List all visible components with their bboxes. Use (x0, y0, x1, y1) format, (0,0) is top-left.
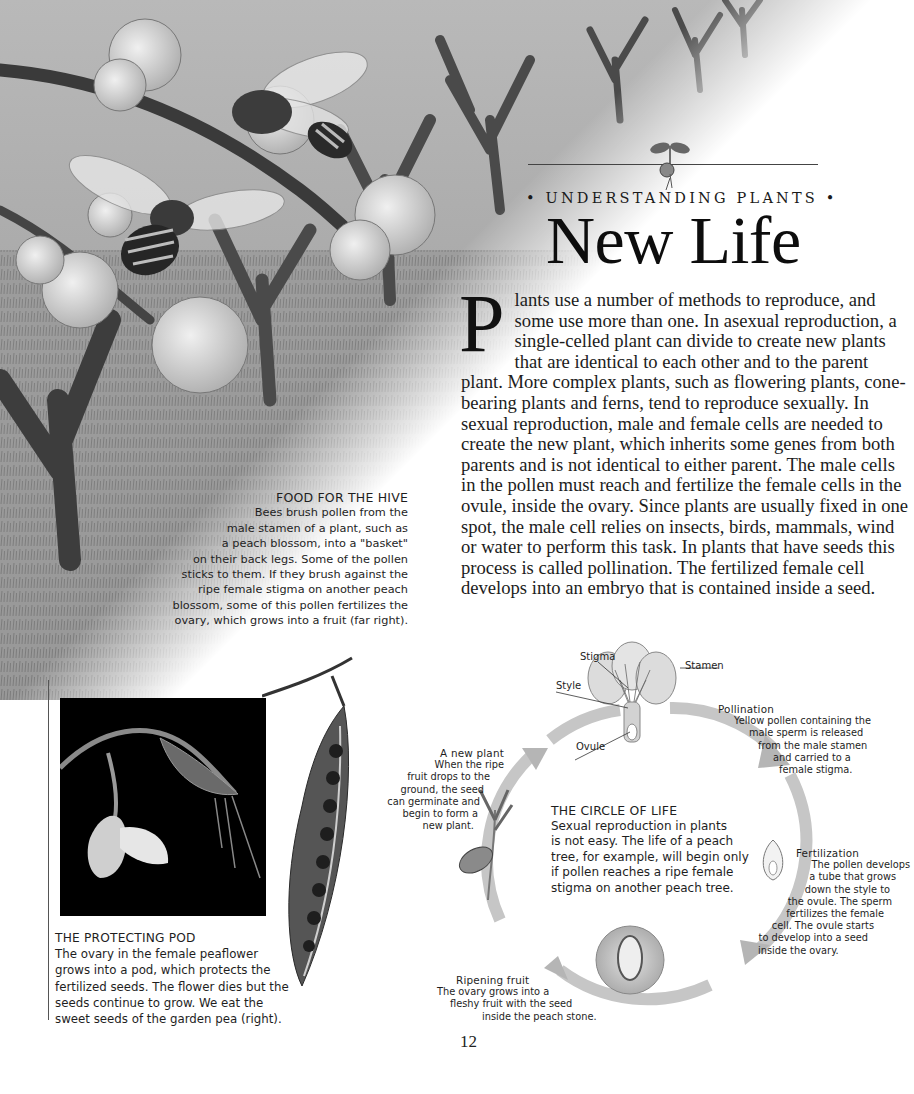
caption-heading: THE CIRCLE OF LIFE (551, 803, 751, 819)
drop-cap: P (459, 294, 505, 354)
caption-line: female stigma. (718, 764, 914, 776)
label-style: Style (556, 680, 581, 691)
caption-line: Bees brush pollen from the (140, 505, 408, 520)
body-paragraph: P lants use a number of methods to repro… (461, 290, 911, 599)
caption-line: sweet seeds of the garden pea (right). (55, 1011, 285, 1027)
body-text: lants use a number of methods to reprodu… (461, 289, 908, 598)
caption-line: stigma on another peach tree. (551, 881, 751, 897)
caption-line: fertilizes the female (758, 908, 910, 920)
sprout-icon (648, 138, 692, 194)
caption-line: to develop into a seed (758, 932, 910, 944)
caption-line: seeds continue to grow. We eat the (55, 995, 285, 1011)
caption-heading: Pollination (718, 703, 914, 715)
caption-line: is not easy. The life of a peach (551, 834, 751, 850)
new-plant-caption: A new plant When the ripe fruit drops to… (368, 747, 504, 832)
caption-line: male sperm is released (718, 727, 914, 739)
label-stamen: Stamen (685, 660, 724, 671)
caption-line: a tube that grows (758, 871, 910, 883)
pollination-caption: Pollination Yellow pollen containing the… (718, 703, 914, 776)
caption-line: sticks to them. If they brush against th… (140, 567, 408, 582)
caption-line: ground, the seed (368, 784, 504, 796)
caption-line: blossom, some of this pollen fertilizes … (140, 598, 408, 613)
label-ovule: Ovule (576, 741, 605, 752)
caption-line: fruit drops to the (368, 771, 504, 783)
caption-line: tree, for example, will begin only (551, 850, 751, 866)
caption-line: The ovary in the female peaflower (55, 946, 285, 962)
caption-line: male stamen of a plant, such as (140, 521, 408, 536)
caption-line: Yellow pollen containing the (718, 715, 914, 727)
caption-line: if pollen reaches a ripe female (551, 865, 751, 881)
caption-line: The ovary grows into a (437, 986, 617, 998)
label-stigma: Stigma (580, 651, 615, 662)
peaflower-photo (60, 698, 266, 916)
caption-heading: A new plant (368, 747, 504, 759)
caption-line: inside the ovary. (758, 945, 910, 957)
caption-line: and carried to a (718, 752, 914, 764)
caption-line: begin to form a (368, 808, 504, 820)
caption-line: fleshy fruit with the seed (437, 998, 617, 1010)
caption-line: ovary, which grows into a fruit (far rig… (140, 613, 408, 628)
food-for-the-hive-caption: FOOD FOR THE HIVE Bees brush pollen from… (140, 490, 408, 629)
circle-of-life-caption: THE CIRCLE OF LIFE Sexual reproduction i… (551, 803, 751, 897)
caption-line: fertilized seeds. The flower dies but th… (55, 979, 285, 995)
caption-line: new plant. (368, 820, 504, 832)
caption-line: The pollen develops (758, 859, 910, 871)
caption-line: inside the peach stone. (437, 1011, 617, 1023)
page-title: New Life (546, 206, 801, 274)
page-number: 12 (460, 1032, 477, 1052)
caption-heading: Fertilization (758, 847, 910, 859)
caption-line: down the style to (758, 884, 910, 896)
caption-line: cell. The ovule starts (758, 920, 910, 932)
protecting-pod-caption: THE PROTECTING POD The ovary in the fema… (55, 930, 285, 1027)
margin-rule (48, 680, 49, 1020)
caption-line: Sexual reproduction in plants (551, 819, 751, 835)
caption-line: ripe female stigma on another peach (140, 582, 408, 597)
caption-line: grows into a pod, which protects the (55, 962, 285, 978)
fertilization-caption: Fertilization The pollen develops a tube… (758, 847, 910, 957)
caption-line: on their back legs. Some of the pollen (140, 552, 408, 567)
caption-line: the ovule. The sperm (758, 896, 910, 908)
caption-line: from the male stamen (718, 740, 914, 752)
caption-line: When the ripe (368, 759, 504, 771)
caption-line: can germinate and (368, 796, 504, 808)
caption-heading: THE PROTECTING POD (55, 930, 285, 946)
caption-heading: Ripening fruit (437, 974, 617, 986)
caption-heading: FOOD FOR THE HIVE (140, 490, 408, 505)
ripening-fruit-caption: Ripening fruit The ovary grows into a fl… (437, 974, 617, 1023)
caption-line: a peach blossom, into a "basket" (140, 536, 408, 551)
